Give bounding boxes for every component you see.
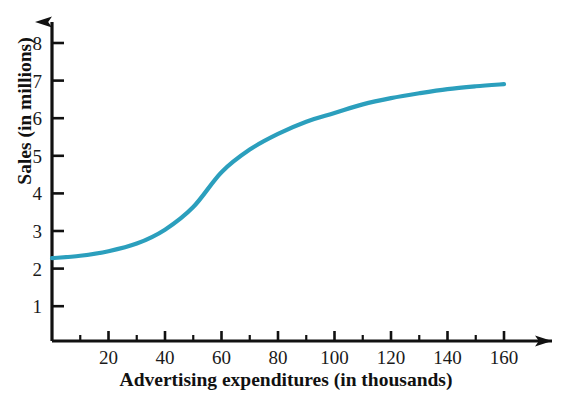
- x-axis-title: Advertising expenditures (in thousands): [0, 369, 572, 391]
- x-tick-label-60: 60: [212, 348, 231, 367]
- y-axis-title: Sales (in millions): [14, 1, 36, 221]
- x-tick-label-80: 80: [269, 348, 288, 367]
- y-tick-label-2: 2: [33, 260, 43, 279]
- sales-curve: [52, 84, 504, 258]
- y-axis-ticks: [52, 43, 64, 306]
- sales-vs-advertising-chart: 8 7 6 5 4 3 2 1 20 40 60 80 100 120 140 …: [0, 0, 572, 397]
- y-tick-label-3: 3: [33, 222, 43, 241]
- x-tick-label-160: 160: [490, 348, 519, 367]
- x-tick-label-140: 140: [433, 348, 462, 367]
- x-tick-label-100: 100: [320, 348, 349, 367]
- x-tick-label-40: 40: [156, 348, 175, 367]
- x-tick-label-20: 20: [99, 348, 118, 367]
- y-tick-label-1: 1: [33, 297, 43, 316]
- x-tick-label-120: 120: [377, 348, 406, 367]
- chart-plot-area: [0, 0, 572, 397]
